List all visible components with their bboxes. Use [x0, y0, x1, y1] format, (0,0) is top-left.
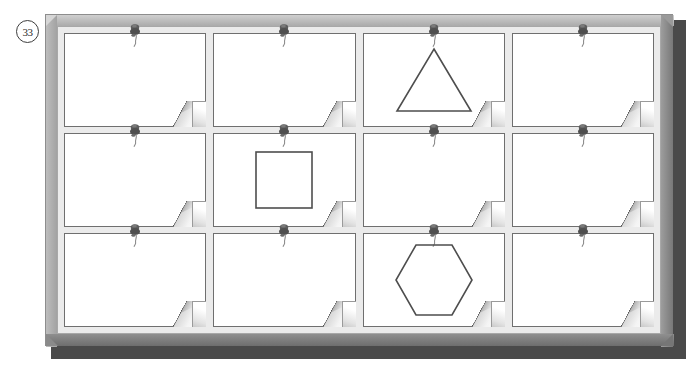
push-pin-icon[interactable] [275, 22, 293, 48]
card-r2c1[interactable] [64, 133, 206, 227]
page-curl-edge [151, 201, 206, 227]
push-pin-icon[interactable] [574, 22, 592, 48]
page-curl-icon [151, 101, 206, 127]
page-curl-flap [301, 301, 356, 327]
page-curl-under [151, 101, 206, 127]
card-r2c4[interactable] [512, 133, 654, 227]
page-curl-tip [192, 301, 206, 327]
page-curl-flap [151, 101, 206, 127]
page-curl-edge [599, 301, 654, 327]
page-curl-tip [640, 101, 654, 127]
card-r3c2[interactable] [213, 233, 355, 327]
page-curl-flap [599, 301, 654, 327]
board-corner-top-right [661, 15, 673, 27]
page-curl-tip [192, 201, 206, 227]
page-curl-under [151, 201, 206, 227]
page-curl-edge [599, 101, 654, 127]
page-curl-icon [151, 301, 206, 327]
board-corner-top-left [46, 15, 57, 26]
page-curl-flap [301, 101, 356, 127]
page-curl-flap [151, 301, 206, 327]
page-curl-flap [151, 201, 206, 227]
page-curl-under [599, 201, 654, 227]
page-curl-under [599, 301, 654, 327]
page-curl-under [301, 101, 356, 127]
page-curl-flap [450, 201, 505, 227]
card-r2c2[interactable] [213, 133, 355, 227]
page-curl-under [450, 201, 505, 227]
page-curl-icon [599, 301, 654, 327]
card-r1c3[interactable] [363, 33, 505, 127]
page-curl-under [599, 101, 654, 127]
card-r3c1[interactable] [64, 233, 206, 327]
board-corner-bottom-right [661, 334, 673, 346]
page-curl-tip [640, 301, 654, 327]
board-corner-bottom-left [46, 334, 58, 346]
page-curl-tip [342, 101, 356, 127]
card-r1c1[interactable] [64, 33, 206, 127]
board-bevel-left [46, 15, 57, 347]
page-curl-icon [599, 201, 654, 227]
square-shape [214, 134, 354, 226]
card-r3c4[interactable] [512, 233, 654, 327]
board-panel [57, 26, 661, 334]
board-bevel-bottom [46, 334, 674, 346]
page-curl-edge [450, 201, 505, 227]
page-curl-edge [151, 301, 206, 327]
push-pin-icon[interactable] [275, 222, 293, 248]
page-curl-icon [301, 101, 356, 127]
page-curl-tip [640, 201, 654, 227]
push-pin-icon[interactable] [425, 122, 443, 148]
push-pin-icon[interactable] [574, 122, 592, 148]
page-curl-tip [192, 101, 206, 127]
card-r2c3[interactable] [363, 133, 505, 227]
page-curl-flap [599, 201, 654, 227]
card-r1c4[interactable] [512, 33, 654, 127]
push-pin-icon[interactable] [574, 222, 592, 248]
page-curl-icon [151, 201, 206, 227]
page-curl-edge [301, 101, 356, 127]
page-curl-under [301, 301, 356, 327]
board-frame [45, 14, 673, 346]
page-curl-edge [599, 201, 654, 227]
page-curl-icon [450, 201, 505, 227]
page-curl-edge [151, 101, 206, 127]
triangle-shape [364, 34, 504, 126]
card-r3c3[interactable] [363, 233, 505, 327]
page-curl-edge [301, 301, 356, 327]
page-curl-tip [491, 201, 505, 227]
page-curl-flap [599, 101, 654, 127]
card-grid [64, 33, 654, 327]
hexagon-shape [364, 234, 504, 326]
pin-board [45, 14, 686, 359]
push-pin-icon[interactable] [126, 22, 144, 48]
page-curl-icon [599, 101, 654, 127]
page-curl-tip [342, 301, 356, 327]
push-pin-icon[interactable] [126, 222, 144, 248]
page-curl-under [151, 301, 206, 327]
page-curl-icon [301, 301, 356, 327]
board-bevel-right [661, 15, 673, 347]
card-r1c2[interactable] [213, 33, 355, 127]
push-pin-icon[interactable] [126, 122, 144, 148]
question-number-badge: 33 [16, 20, 39, 43]
